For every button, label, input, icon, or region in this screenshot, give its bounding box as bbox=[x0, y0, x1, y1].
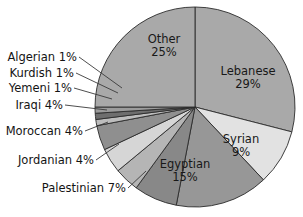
pie-slice-other bbox=[95, 7, 195, 107]
slice-label-moroccan: Moroccan 4% bbox=[0, 124, 83, 138]
slice-label-iraqi: Iraqi 4% bbox=[0, 98, 63, 112]
slice-label-algerian: Algerian 1% bbox=[0, 50, 77, 64]
slice-label-kurdish: Kurdish 1% bbox=[0, 66, 74, 80]
slice-label-palestinian: Palestinian 7% bbox=[0, 181, 126, 195]
pie-slices-group bbox=[95, 7, 295, 207]
slice-label-jordanian: Jordanian 4% bbox=[0, 153, 94, 167]
slice-label-yemeni: Yemeni 1% bbox=[0, 81, 72, 95]
pie-chart: Other 25% Lebanese 29% Syrian 9% Egyptia… bbox=[0, 0, 303, 217]
